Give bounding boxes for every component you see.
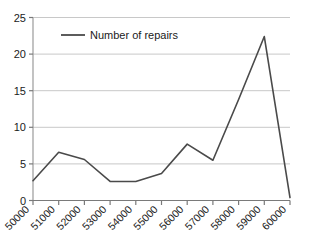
y-tick-label-25: 25 xyxy=(14,12,26,24)
y-tick-label-20: 20 xyxy=(14,48,26,60)
y-tick-label-15: 15 xyxy=(14,85,26,97)
y-tick-label-5: 5 xyxy=(20,158,26,170)
y-tick-label-10: 10 xyxy=(14,121,26,133)
legend-label-number-of-repairs: Number of repairs xyxy=(90,29,179,41)
chart-container: 25 20 15 10 5 0 50000 51000 52000 530 xyxy=(0,0,311,248)
line-chart: 25 20 15 10 5 0 50000 51000 52000 530 xyxy=(0,0,311,248)
